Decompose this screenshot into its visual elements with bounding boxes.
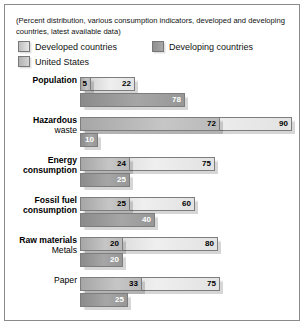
- legend-swatch-developing-icon: [152, 41, 164, 52]
- chart-row-fossil-fuel-consumption: Fossil fuel consumption 60 25 40: [5, 195, 301, 235]
- bar-united-states-paper: 33: [80, 277, 142, 291]
- bar-value-developing-population: 78: [172, 96, 181, 104]
- bar-value-developing-energy-consumption: 25: [117, 176, 126, 184]
- bar-value-developing-fossil-fuel-consumption: 40: [142, 216, 151, 224]
- row-bars-paper: 75 33 25: [80, 275, 297, 315]
- legend-label-developing: Developing countries: [169, 42, 253, 52]
- row-label-fossil-fuel-consumption: Fossil fuel consumption: [0, 195, 77, 215]
- bar-developing-population: 78: [80, 93, 185, 107]
- legend-item-developing-countries: Developing countries: [152, 41, 253, 52]
- legend-label-united-states: United States: [35, 57, 89, 67]
- legend-label-developed: Developed countries: [35, 42, 117, 52]
- row-label-energy-consumption: Energy consumption: [0, 155, 77, 175]
- bar-value-united-states-energy-consumption: 24: [117, 160, 126, 168]
- chart-caption: (Percent distribution, various consumpti…: [16, 16, 286, 37]
- bar-value-developed-fossil-fuel-consumption: 60: [182, 200, 191, 208]
- row-label-raw-materials-metals: Raw materials Metals: [0, 235, 77, 255]
- bar-united-states-fossil-fuel-consumption: 25: [80, 197, 130, 211]
- row-bars-raw-materials-metals: 80 20 20: [80, 235, 297, 275]
- bar-united-states-raw-materials: 20: [80, 237, 123, 251]
- chart-row-raw-materials-metals: Raw materials Metals 80 20 20: [5, 235, 301, 275]
- row-label-population: Population: [0, 75, 77, 85]
- bar-developing-paper: 25: [80, 293, 128, 307]
- bar-developing-raw-materials: 20: [80, 253, 123, 267]
- bar-value-united-states-paper: 33: [129, 280, 138, 288]
- row-bars-population: 22 5 78: [80, 75, 297, 115]
- chart-row-population: Population 22 5 78: [5, 75, 301, 115]
- bar-value-developing-raw-materials: 20: [110, 256, 119, 264]
- row-label-hazardous-waste: Hazardous waste: [0, 115, 77, 135]
- bar-value-developing-paper: 25: [115, 296, 124, 304]
- bar-value-developed-raw-materials: 80: [205, 240, 214, 248]
- bar-united-states-hazardous-waste: 72: [80, 117, 220, 131]
- legend-swatch-developed-icon: [18, 41, 30, 52]
- bar-value-developed-paper: 75: [207, 280, 216, 288]
- chart-row-paper: Paper 75 33 25: [5, 275, 301, 315]
- legend-item-developed-countries: Developed countries: [18, 41, 117, 52]
- bar-value-developed-energy-consumption: 75: [202, 160, 211, 168]
- bar-value-united-states-hazardous-waste: 72: [207, 120, 216, 128]
- row-label-paper: Paper: [0, 275, 77, 285]
- row-bars-hazardous-waste: 90 72 10: [80, 115, 297, 155]
- bar-value-united-states-raw-materials: 20: [110, 240, 119, 248]
- bar-value-united-states-fossil-fuel-consumption: 25: [117, 200, 126, 208]
- bar-value-developing-hazardous-waste: 10: [85, 136, 94, 144]
- bar-developing-energy-consumption: 25: [80, 173, 130, 187]
- chart-rows: Population 22 5 78 Hazardous waste: [5, 75, 301, 315]
- bar-value-developed-hazardous-waste: 90: [279, 120, 288, 128]
- bar-developing-hazardous-waste: 10: [80, 133, 98, 147]
- legend-item-united-states: United States: [18, 56, 89, 67]
- bar-united-states-energy-consumption: 24: [80, 157, 130, 171]
- bar-value-developed-population: 22: [122, 80, 131, 88]
- legend-swatch-united-states-icon: [18, 56, 30, 67]
- chart-row-hazardous-waste: Hazardous waste 90 72 10: [5, 115, 301, 155]
- chart-frame: (Percent distribution, various consumpti…: [4, 4, 300, 321]
- bar-value-united-states-population: 5: [83, 80, 87, 88]
- bar-united-states-population: 5: [80, 77, 91, 91]
- row-bars-energy-consumption: 75 24 25: [80, 155, 297, 195]
- chart-row-energy-consumption: Energy consumption 75 24 25: [5, 155, 301, 195]
- bar-developing-fossil-fuel-consumption: 40: [80, 213, 155, 227]
- row-bars-fossil-fuel-consumption: 60 25 40: [80, 195, 297, 235]
